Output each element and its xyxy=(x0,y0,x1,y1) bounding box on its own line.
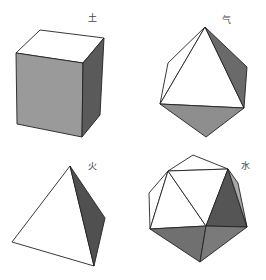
icosahedron-bottom-left-face xyxy=(150,226,206,262)
platonic-solids-diagram: 土 气 火 水 xyxy=(0,0,266,280)
solids-canvas xyxy=(0,0,266,280)
icosahedron-top-face xyxy=(168,155,228,171)
octahedron-bottom-face xyxy=(160,104,244,137)
octahedron-label-air: 气 xyxy=(222,16,231,25)
cube-front-face xyxy=(16,53,83,137)
icosahedron-bottom-right-face xyxy=(200,226,247,262)
tetrahedron-solid xyxy=(12,166,105,266)
cube-label-earth: 土 xyxy=(88,14,97,23)
icosahedron-solid xyxy=(149,155,247,262)
tetrahedron-label-fire: 火 xyxy=(88,162,97,171)
cube-solid xyxy=(16,30,104,137)
octahedron-solid xyxy=(160,27,247,137)
icosahedron-label-water: 水 xyxy=(241,162,250,171)
